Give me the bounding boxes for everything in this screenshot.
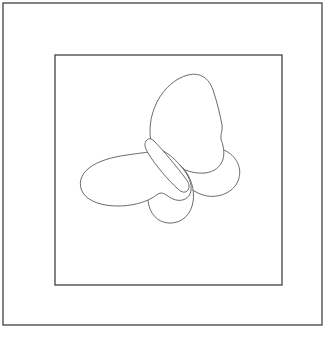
butterfly-line-drawing <box>0 0 333 340</box>
artwork-canvas: Butterfly line drawing butterfly outline… <box>0 0 333 340</box>
